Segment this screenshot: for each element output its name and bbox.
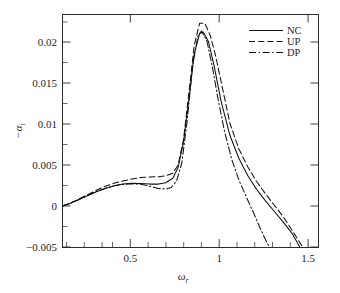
data-curves (63, 23, 303, 247)
x-axis-ticks (67, 239, 309, 247)
x-axis-ticks-top (130, 15, 308, 23)
y-tick-label: 0.005 (32, 159, 57, 171)
x-tick-labels: 0.5 1 1.5 (123, 252, 315, 264)
y-tick-label: 0 (52, 200, 58, 212)
y-tick-label: 0.015 (32, 77, 57, 89)
legend: NC UP DP (249, 25, 302, 58)
legend-label-dp: DP (287, 47, 301, 58)
legend-label-up: UP (287, 36, 301, 47)
x-axis-title: ωr (178, 270, 189, 285)
curve-dp (63, 31, 270, 247)
curve-nc (63, 32, 301, 248)
svg-text:−αi: −αi (12, 123, 27, 138)
x-axis-title-sub: r (185, 276, 188, 285)
y-tick-label: 0.01 (38, 118, 57, 130)
y-axis-title-text: −α (12, 125, 24, 138)
x-tick-label: 0.5 (123, 252, 137, 264)
legend-label-nc: NC (287, 25, 302, 36)
stability-curve-chart: 0.02 0.015 0.01 0.005 0 −0.005 0.5 1 1.5… (0, 0, 340, 293)
svg-text:ωr: ωr (178, 270, 189, 285)
curve-up (63, 23, 303, 247)
y-tick-labels: 0.02 0.015 0.01 0.005 0 −0.005 (26, 36, 57, 253)
y-tick-label: −0.005 (26, 241, 57, 253)
x-tick-label: 1.5 (301, 252, 315, 264)
y-axis-ticks (63, 22, 71, 247)
y-axis-ticks-right (311, 42, 319, 247)
figure-container: 0.02 0.015 0.01 0.005 0 −0.005 0.5 1 1.5… (0, 0, 340, 293)
y-axis-title-sub: i (18, 123, 27, 125)
x-tick-label: 1 (216, 252, 222, 264)
y-axis-title: −αi (12, 123, 27, 138)
y-tick-label: 0.02 (38, 36, 57, 48)
